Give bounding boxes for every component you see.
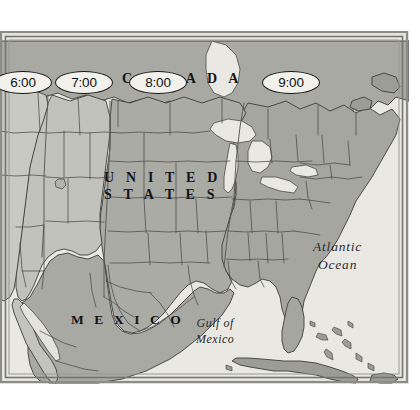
time-zone-map-figure: 6:00 7:00 8:00 9:00 C A N A D A U N I T …	[0, 0, 420, 410]
gulf-of-mexico-label: Gulf of Mexico	[196, 316, 234, 348]
united-states-label: U N I T E D S T A T E S	[104, 170, 222, 203]
central-time-text: 8:00	[145, 75, 170, 90]
mexico-label: M E X I C O	[71, 312, 184, 328]
eastern-time-text: 9:00	[278, 75, 303, 90]
mountain-time-text: 7:00	[71, 75, 96, 90]
mountain-time-label[interactable]: 7:00	[55, 71, 113, 94]
united-states-label-line2: S T A T E S	[104, 187, 222, 204]
central-time-label[interactable]: 8:00	[129, 71, 187, 94]
pacific-time-text: 6:00	[10, 75, 35, 90]
eastern-time-label[interactable]: 9:00	[262, 71, 320, 94]
map-frame: 6:00 7:00 8:00 9:00 C A N A D A U N I T …	[0, 31, 409, 384]
gulf-of-mexico-label-line2: Mexico	[196, 332, 234, 348]
united-states-label-line1: U N I T E D	[104, 170, 222, 187]
atlantic-ocean-label-line1: Atlantic	[313, 238, 362, 256]
atlantic-ocean-label-line2: Ocean	[313, 256, 362, 274]
gulf-of-mexico-label-line1: Gulf of	[196, 316, 234, 332]
atlantic-ocean-label: Atlantic Ocean	[313, 238, 362, 274]
